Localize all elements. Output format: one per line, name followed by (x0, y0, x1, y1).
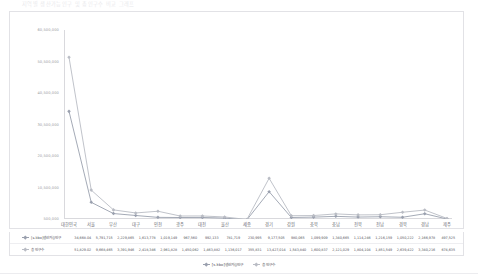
legend-marker-icon (203, 264, 210, 265)
table-cell: 992,133 (201, 236, 223, 240)
x-axis-tick-label: 경남 (421, 221, 429, 227)
data-point-marker (89, 201, 93, 205)
table-cell: 1,099,909 (309, 236, 331, 240)
table-cell: 2,229,865 (115, 236, 137, 240)
marker-diamond-icon (24, 247, 28, 251)
x-axis-tick-label: 울산 (221, 221, 229, 227)
data-point-marker (156, 216, 160, 219)
x-axis-tick-label: 세종 (243, 221, 251, 227)
data-point-marker (334, 212, 338, 216)
x-axis-tick-label: 경기 (265, 221, 273, 227)
marker-diamond-icon (24, 235, 28, 239)
legend-item[interactable]: [s.kbo]생산가능인구 (203, 262, 243, 267)
data-point-marker (401, 215, 405, 219)
series-marker-icon (22, 237, 29, 238)
table-cell: 3,391,946 (115, 248, 137, 252)
table-cell: 1,600,837 (309, 248, 331, 252)
table-cell: 1,050,222 (395, 236, 417, 240)
data-table: [s.kbo]생산가능인구34,668.045,791,7152,229,865… (9, 232, 464, 256)
table-cell: 1,340,665 (330, 236, 352, 240)
table-cell: 1,851,549 (373, 248, 395, 252)
data-point-marker (156, 209, 160, 213)
table-cell: 2,961,828 (158, 248, 180, 252)
table-cell: 1,543,840 (287, 248, 309, 252)
table-cell: 9,668,465 (94, 248, 116, 252)
table-cell: 497,525 (438, 236, 460, 240)
y-axis-tick-label: 50,500,000 (37, 60, 59, 64)
x-axis-tick-label: 전남 (376, 221, 384, 227)
table-cell: 9,177,505 (266, 236, 288, 240)
y-axis-tick-label: 40,500,000 (37, 91, 59, 95)
chart-frame: 500,00010,500,00020,500,00030,500,00040,… (9, 11, 464, 229)
table-cell: 1,114,246 (352, 236, 374, 240)
table-cell: 1,019,149 (158, 236, 180, 240)
chart-legend: [s.kbo]생산가능인구총 인구수 (0, 262, 478, 267)
table-cell: 2,418,346 (137, 248, 159, 252)
table-row: [s.kbo]생산가능인구34,668.045,791,7152,229,865… (10, 232, 463, 243)
x-axis-tick-label: 전북 (354, 221, 362, 227)
table-cell: 674,635 (438, 248, 460, 252)
line-series-layer (64, 30, 452, 219)
table-row-values: 34,668.045,791,7152,229,8651,613,7781,01… (72, 236, 463, 240)
x-axis-tick-label: 강원 (287, 221, 295, 227)
data-point-marker (356, 213, 360, 217)
data-point-marker (134, 211, 138, 215)
table-row-label: 총 인구수 (10, 247, 72, 252)
table-cell: 3,340,216 (416, 248, 438, 252)
data-point-marker (379, 213, 383, 217)
table-cell: 2,166,978 (416, 236, 438, 240)
legend-item[interactable]: 총 인구수 (253, 262, 275, 267)
y-axis-tick-label: 60,500,000 (37, 28, 59, 32)
series-line (69, 57, 447, 219)
table-row-values: 51,829.029,668,4653,391,9462,418,3462,96… (72, 248, 463, 252)
data-point-marker (401, 210, 405, 214)
legend-label: [s.kbo]생산가능인구 (212, 262, 243, 267)
table-cell: 34,668.04 (72, 236, 94, 240)
table-cell: 1,136,017 (223, 248, 245, 252)
table-cell: 2,121,029 (330, 248, 352, 252)
x-axis-tick-label: 충북 (310, 221, 318, 227)
table-cell: 355,831 (244, 248, 266, 252)
plot-area: 500,00010,500,00020,500,00030,500,00040,… (64, 30, 452, 219)
table-cell: 51,829.02 (72, 248, 94, 252)
marker-diamond-icon (255, 262, 259, 266)
y-axis-tick-label: 10,500,000 (37, 186, 59, 190)
table-cell: 980,065 (287, 236, 309, 240)
table-cell: 1,613,778 (137, 236, 159, 240)
bottom-divider (0, 273, 478, 274)
table-row-label-text: [s.kbo]생산가능인구 (31, 235, 61, 240)
data-point-marker (423, 212, 427, 216)
table-row-label: [s.kbo]생산가능인구 (10, 235, 72, 240)
x-axis-tick-label: 인천 (154, 221, 162, 227)
table-row-label-text: 총 인구수 (31, 247, 44, 252)
legend-marker-icon (253, 264, 260, 265)
x-axis-tick-label: 대한민국 (61, 221, 77, 227)
table-cell: 967,560 (180, 236, 202, 240)
table-cell: 1,450,062 (180, 248, 202, 252)
table-cell: 2,639,422 (395, 248, 417, 252)
y-axis-tick-label: 30,500,000 (37, 123, 59, 127)
x-axis-tick-label: 충남 (332, 221, 340, 227)
x-axis-tick-label: 서울 (87, 221, 95, 227)
data-point-marker (112, 212, 116, 216)
data-point-marker (423, 208, 427, 212)
x-axis-tick-label: 광주 (176, 221, 184, 227)
table-cell: 781,719 (223, 236, 245, 240)
series-marker-icon (22, 249, 29, 250)
page-title: 지역별 생산가능인구 및 총인구수 비교 그래프 (22, 0, 135, 7)
x-axis-tick-label: 부산 (109, 221, 117, 227)
table-row: 총 인구수51,829.029,668,4653,391,9462,418,34… (10, 243, 463, 255)
data-point-marker (67, 110, 71, 114)
table-cell: 1,463,882 (201, 248, 223, 252)
table-cell: 5,791,715 (94, 236, 116, 240)
x-axis-tick-label: 제주 (443, 221, 451, 227)
table-cell: 1,804,104 (352, 248, 374, 252)
y-axis-tick-label: 20,500,000 (37, 154, 59, 158)
x-axis-tick-label: 대전 (198, 221, 206, 227)
chart-page: 지역별 생산가능인구 및 총인구수 비교 그래프 500,00010,500,0… (0, 0, 478, 280)
x-axis-tick-label: 경북 (399, 221, 407, 227)
table-cell: 1,216,159 (373, 236, 395, 240)
legend-label: 총 인구수 (262, 262, 275, 267)
table-cell: 13,427,014 (266, 248, 288, 252)
table-cell: 230,995 (244, 236, 266, 240)
